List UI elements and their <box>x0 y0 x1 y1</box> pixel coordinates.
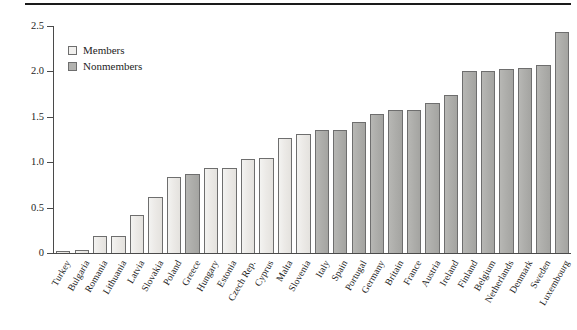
y-axis-tick <box>47 117 53 118</box>
x-label-cell: Slovenia <box>294 256 312 330</box>
x-label-cell: Cyprus <box>257 256 275 330</box>
x-axis-category-labels: TurkeyBulgariaRomaniaLithuaniaLatviaSlov… <box>54 256 571 330</box>
bar-cell <box>276 26 294 253</box>
bar-cell <box>553 26 571 253</box>
bar-cell <box>239 26 257 253</box>
bar-britain <box>388 110 402 253</box>
bar-greece <box>185 174 199 253</box>
x-axis-line <box>53 253 571 254</box>
bar-cell <box>128 26 146 253</box>
bar-cell <box>405 26 423 253</box>
bar-cell <box>516 26 534 253</box>
bar-cell <box>183 26 201 253</box>
x-label-cell: Luxembourg <box>553 256 571 330</box>
bar-netherlands <box>499 69 513 253</box>
x-label-cell: Hungary <box>202 256 220 330</box>
x-label-cell: Slovakia <box>146 256 164 330</box>
y-axis-tick-label: 2.5 <box>31 21 44 31</box>
bar-portugal <box>352 122 366 253</box>
bar-romania <box>93 236 107 253</box>
bar-turkey <box>56 251 70 253</box>
y-axis-tick <box>47 253 53 254</box>
bar-cell <box>497 26 515 253</box>
x-label-cell: Germany <box>368 256 386 330</box>
y-axis-tick-label: 0 <box>39 248 44 258</box>
bar-cell <box>146 26 164 253</box>
bar-lithuania <box>111 236 125 253</box>
bar-finland <box>462 71 476 253</box>
bar-series <box>54 26 571 253</box>
bar-latvia <box>130 215 144 253</box>
x-axis-label: Britain <box>382 258 405 287</box>
bar-poland <box>167 177 181 253</box>
bar-cell <box>534 26 552 253</box>
y-axis-tick-label: 1.5 <box>31 112 44 122</box>
bar-sweden <box>536 65 550 253</box>
x-label-cell: Finland <box>460 256 478 330</box>
bar-cell <box>109 26 127 253</box>
bar-cell <box>331 26 349 253</box>
x-label-cell: Britain <box>386 256 404 330</box>
x-label-cell: Denmark <box>516 256 534 330</box>
x-label-cell: Italy <box>313 256 331 330</box>
bar-cyprus <box>259 158 273 253</box>
y-axis-tick <box>47 208 53 209</box>
bar-cell <box>257 26 275 253</box>
chart-figure: 00.51.01.52.02.5 Members Nonmembers Turk… <box>0 0 577 330</box>
x-label-cell: Lithuania <box>109 256 127 330</box>
bar-germany <box>370 114 384 253</box>
bar-belgium <box>481 71 495 254</box>
bar-luxembourg <box>555 32 569 253</box>
bar-slovenia <box>296 134 310 253</box>
bar-slovakia <box>148 197 162 253</box>
y-axis-tick <box>47 26 53 27</box>
bar-spain <box>333 130 347 253</box>
y-axis-tick <box>47 71 53 72</box>
y-axis-tick-label: 2.0 <box>31 66 44 76</box>
x-label-cell: Bulgaria <box>72 256 90 330</box>
bar-cell <box>54 26 72 253</box>
x-label-cell: France <box>405 256 423 330</box>
x-label-cell: Malta <box>276 256 294 330</box>
bar-cell <box>423 26 441 253</box>
bar-estonia <box>222 168 236 253</box>
bar-cell <box>165 26 183 253</box>
bar-austria <box>425 103 439 253</box>
header-rule <box>25 3 571 5</box>
bar-ireland <box>444 95 458 253</box>
bar-italy <box>315 130 329 253</box>
bar-denmark <box>518 68 532 253</box>
bar-cell <box>72 26 90 253</box>
x-label-cell: Austria <box>423 256 441 330</box>
bar-cell <box>91 26 109 253</box>
x-label-cell: Poland <box>165 256 183 330</box>
x-label-cell: Turkey <box>54 256 72 330</box>
x-label-cell: Spain <box>331 256 349 330</box>
y-axis-tick <box>47 162 53 163</box>
y-axis-tick-label: 1.0 <box>31 157 44 167</box>
x-label-cell: Greece <box>183 256 201 330</box>
bar-cell <box>386 26 404 253</box>
bar-bulgaria <box>75 250 89 253</box>
bar-cell <box>313 26 331 253</box>
bar-hungary <box>204 168 218 253</box>
bar-cell <box>479 26 497 253</box>
bar-cell <box>350 26 368 253</box>
bar-cell <box>220 26 238 253</box>
bar-france <box>407 110 421 253</box>
bar-czech-rep <box>241 159 255 253</box>
bar-cell <box>294 26 312 253</box>
bar-malta <box>278 138 292 253</box>
y-axis-tick-labels: 00.51.01.52.02.5 <box>0 0 44 330</box>
bar-cell <box>368 26 386 253</box>
x-label-cell: Czech Rep. <box>239 256 257 330</box>
bar-cell <box>460 26 478 253</box>
x-label-cell: Ireland <box>442 256 460 330</box>
x-label-cell: Latvia <box>128 256 146 330</box>
bar-cell <box>202 26 220 253</box>
bar-cell <box>442 26 460 253</box>
y-axis-tick-label: 0.5 <box>31 203 44 213</box>
